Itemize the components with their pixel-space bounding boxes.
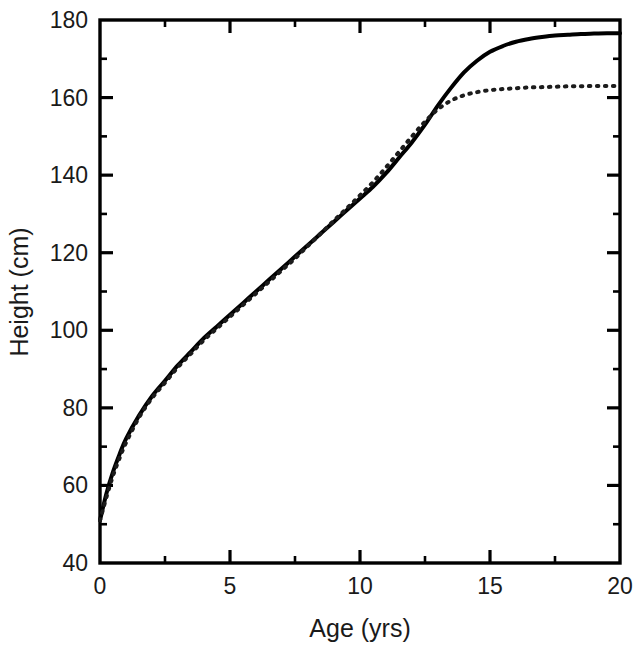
y-tick-label: 60 <box>62 472 88 498</box>
x-axis-title: Age (yrs) <box>309 614 410 642</box>
x-tick-label: 0 <box>94 573 107 599</box>
y-tick-label: 40 <box>62 550 88 576</box>
y-tick-label: 160 <box>50 85 88 111</box>
y-tick-label: 120 <box>50 240 88 266</box>
y-axis-title: Height (cm) <box>5 227 33 356</box>
x-tick-label: 5 <box>224 573 237 599</box>
y-tick-label: 100 <box>50 317 88 343</box>
x-tick-label: 15 <box>477 573 503 599</box>
y-tick-label: 140 <box>50 162 88 188</box>
y-tick-label: 80 <box>62 395 88 421</box>
x-tick-label: 20 <box>607 573 633 599</box>
x-tick-label: 10 <box>347 573 373 599</box>
chart-background <box>0 0 641 650</box>
y-tick-label: 180 <box>50 7 88 33</box>
growth-chart: 05101520 406080100120140160180 Age (yrs)… <box>0 0 641 650</box>
